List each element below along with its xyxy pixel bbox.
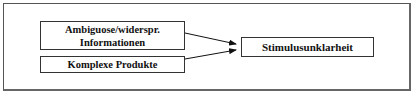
target-box-stimulus-unclarity: Stimulusunklarheit — [241, 37, 374, 57]
source-box-line2: Informationen — [80, 36, 145, 49]
source-box-label: Komplexe Produkte — [68, 58, 158, 71]
arrow-ambiguous-to-target — [185, 33, 236, 44]
target-box-label: Stimulusunklarheit — [262, 41, 353, 54]
source-box-complex-products: Komplexe Produkte — [40, 56, 185, 73]
source-box-line1: Ambiguose/widerspr. — [65, 23, 160, 36]
arrow-complex-to-target — [185, 50, 236, 59]
source-box-ambiguous-information: Ambiguose/widerspr. Informationen — [40, 21, 185, 50]
